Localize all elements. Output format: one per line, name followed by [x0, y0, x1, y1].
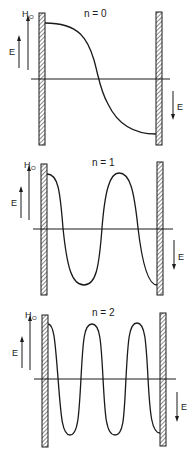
arrow-down-icon	[171, 114, 175, 120]
h-subscript: O	[31, 165, 36, 171]
e-label-right: E	[177, 102, 183, 112]
h-label: H	[22, 9, 29, 19]
arrow-down-icon	[172, 264, 176, 270]
mode-label: n = 2	[92, 307, 115, 318]
e-label-left: E	[12, 348, 18, 358]
mode-label: n = 0	[84, 8, 107, 19]
mode-label: n = 1	[92, 157, 115, 168]
panel-n1: n = 1 H O E E	[11, 157, 184, 295]
arrow-up-icon	[20, 336, 24, 342]
standing-wave-diagram: n = 0 H O E E n = 1 H O E E n = 2	[0, 0, 191, 454]
h-subscript: O	[29, 14, 34, 20]
e-label-right: E	[181, 402, 187, 412]
arrow-up-icon	[19, 186, 23, 192]
panel-n2: n = 2 H O E E	[12, 307, 187, 447]
e-label-left: E	[9, 47, 15, 57]
e-label-right: E	[178, 252, 184, 262]
h-label: H	[25, 310, 32, 320]
panel-n0: n = 0 H O E E	[9, 8, 183, 145]
h-label: H	[24, 160, 31, 170]
left-wall	[42, 315, 48, 447]
arrow-down-icon	[175, 416, 179, 422]
e-label-left: E	[11, 198, 17, 208]
arrow-up-icon	[17, 35, 21, 41]
h-subscript: O	[32, 315, 37, 321]
